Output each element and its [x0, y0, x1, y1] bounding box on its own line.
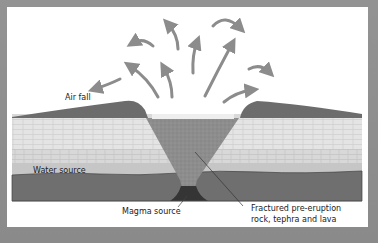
ejecta-arrow	[213, 20, 240, 28]
tephra-ring-right	[240, 101, 362, 118]
label-fractured-line2: rock, tephra and lava	[251, 215, 337, 224]
ejecta-arrow	[224, 90, 252, 102]
tephra-ring-left	[12, 101, 148, 118]
label-air-fall: Air fall	[65, 93, 91, 102]
ejecta-arrow	[205, 44, 232, 96]
ejecta-arrow	[249, 67, 269, 72]
vent-top-band	[152, 114, 234, 119]
ejecta-arrows	[95, 20, 269, 102]
ejecta-arrow	[130, 66, 158, 97]
ejecta-arrow	[133, 41, 153, 46]
ejecta-arrow	[164, 68, 172, 97]
label-magma-source: Magma source	[122, 207, 181, 216]
ejecta-arrow	[168, 24, 178, 49]
ejecta-arrow	[193, 42, 197, 73]
ejecta-arrow	[95, 79, 120, 89]
label-water-source: Water source	[33, 166, 86, 175]
volcano-diagram: Air fall Water source Magma source Fract…	[0, 0, 378, 243]
label-fractured-line1: Fractured pre-eruption	[251, 204, 341, 213]
